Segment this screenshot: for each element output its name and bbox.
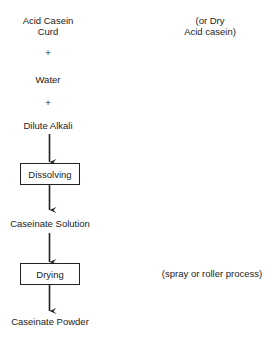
dissolving-label: Dissolving [28,169,71,180]
caseinate-solution-label: Caseinate Solution [0,218,100,229]
drying-process-note: (spray or roller process) [160,268,264,279]
caseinate-powder-label: Caseinate Powder [0,316,100,327]
drying-step-box: Drying [20,263,80,285]
dissolving-step-box: Dissolving [20,163,80,185]
drying-label: Drying [36,269,63,280]
